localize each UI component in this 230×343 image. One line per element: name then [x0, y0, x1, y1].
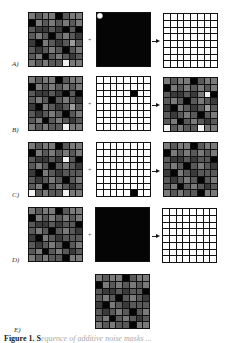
grid-cell — [211, 92, 217, 98]
grid-cell — [210, 256, 216, 262]
grid-cell — [70, 255, 76, 261]
grid-cell — [29, 170, 35, 176]
grid-cell — [116, 228, 123, 235]
grid-cell — [29, 27, 35, 33]
grid-cell — [142, 215, 149, 222]
grid-cell — [164, 98, 170, 104]
grid-cell — [97, 190, 103, 196]
grid-cell — [138, 91, 144, 97]
grid-cell — [124, 59, 131, 66]
grid-cell — [142, 241, 149, 248]
grid-cell — [36, 157, 42, 163]
grid-cell — [49, 215, 55, 221]
grid-cell — [178, 163, 184, 169]
row-label-a: A) — [12, 60, 19, 68]
grid-cell — [129, 254, 136, 261]
grid-cell — [110, 26, 117, 33]
grid-cell — [138, 190, 144, 196]
grid-cell — [43, 84, 49, 90]
figure-caption: Figure 1. Sequence of additive noise mas… — [4, 334, 152, 343]
grid-cell — [163, 236, 169, 242]
grid-cell — [96, 208, 103, 215]
grid-cell — [109, 208, 116, 215]
grid-cell — [124, 124, 130, 130]
grid-cell — [70, 208, 76, 214]
grid-cell — [109, 228, 116, 235]
grid-cell — [56, 54, 62, 60]
grid-cell — [178, 34, 184, 40]
grid-cell — [63, 47, 69, 53]
grid-cell — [142, 254, 149, 261]
grid-cell — [191, 184, 197, 190]
grid-cell — [117, 170, 123, 176]
grid-cell — [117, 20, 124, 27]
grid-cell — [97, 33, 104, 40]
grid-cell — [49, 84, 55, 90]
grid-cell — [178, 143, 184, 149]
grid-cell — [129, 241, 136, 248]
grid-cell — [97, 118, 103, 124]
grid-cell — [43, 235, 49, 241]
grid-cell — [138, 177, 144, 183]
grid-cell — [171, 21, 177, 27]
grid-cell — [63, 190, 69, 196]
grid-cell — [191, 105, 197, 111]
grid-cell — [205, 98, 211, 104]
grid-cell — [96, 215, 103, 222]
grid-cell — [63, 150, 69, 156]
grid-cell — [184, 150, 190, 156]
grid-cell — [171, 92, 177, 98]
grid-cell — [111, 157, 117, 163]
grid-cell — [137, 33, 144, 40]
grid-cell — [183, 256, 189, 262]
grid-cell — [191, 157, 197, 163]
grid-cell — [43, 77, 49, 83]
grid-cell — [184, 112, 190, 118]
grid-cell — [198, 98, 204, 104]
grid-cell — [198, 34, 204, 40]
grid-cell — [49, 13, 55, 19]
grid-cell — [70, 60, 76, 66]
grid-cell — [63, 20, 69, 26]
grid-cell — [197, 243, 203, 249]
plus-operator-b: + — [88, 101, 91, 107]
grid-cell — [43, 242, 49, 248]
grid-cell — [130, 309, 136, 315]
grid-cell — [191, 14, 197, 20]
grid-cell — [131, 91, 137, 97]
grid-cell — [103, 322, 109, 328]
grid-cell — [104, 53, 111, 60]
grid-cell — [36, 150, 42, 156]
grid-cell — [164, 61, 170, 67]
grid-cell — [29, 157, 35, 163]
grid-cell — [70, 215, 76, 221]
grid-cell — [103, 275, 109, 281]
grid-cell — [205, 85, 211, 91]
grid-cell — [171, 55, 177, 61]
arrow-icon-c — [152, 169, 161, 174]
grid-cell — [130, 59, 137, 66]
grid-cell — [205, 170, 211, 176]
grid-cell — [211, 150, 217, 156]
grid-cell — [36, 13, 42, 19]
grid-cell — [70, 170, 76, 176]
grid-cell — [109, 221, 116, 228]
grid-cell — [76, 177, 82, 183]
grid-cell — [76, 27, 82, 33]
grid-cell — [63, 143, 69, 149]
grid-cell — [96, 221, 103, 228]
grid-cell — [171, 78, 177, 84]
grid-cell — [49, 111, 55, 117]
grid-cell — [36, 84, 42, 90]
grid-cell — [131, 190, 137, 196]
grid-cell — [178, 112, 184, 118]
grid-cell — [49, 91, 55, 97]
grid-cell — [123, 275, 129, 281]
grid-cell — [131, 177, 137, 183]
grid-cell — [210, 243, 216, 249]
grid-cell — [97, 184, 103, 190]
grid-cell — [211, 157, 217, 163]
grid-cell — [211, 21, 217, 27]
grid-cell — [76, 91, 82, 97]
grid-cell — [63, 249, 69, 255]
